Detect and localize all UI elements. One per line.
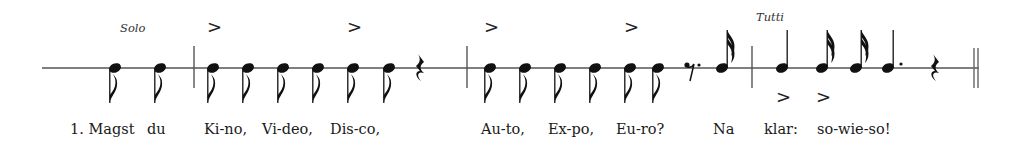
lyric-syllable: Vi-deo, xyxy=(261,121,313,137)
eighth-note: > xyxy=(483,16,500,103)
eighth-note xyxy=(553,61,568,103)
eighth-note xyxy=(276,61,291,103)
flag-icon xyxy=(653,74,660,102)
accent-icon: > xyxy=(484,16,499,37)
eighth-note xyxy=(518,61,533,103)
lyric-syllable: Au-to, xyxy=(480,121,525,137)
lyric-syllable: 1. Magst xyxy=(70,121,135,137)
accent-icon: > xyxy=(776,86,791,107)
eighth-note xyxy=(311,61,326,103)
eighth-note: > xyxy=(623,16,640,103)
flag-icon xyxy=(110,74,117,102)
accent-icon: > xyxy=(624,16,639,37)
flag-icon xyxy=(520,74,527,102)
flag-icon xyxy=(208,74,215,102)
eighth-note xyxy=(153,61,168,103)
eighth-note xyxy=(241,61,256,103)
eighth-note: > xyxy=(346,16,363,103)
accent-icon: > xyxy=(347,16,362,37)
eighth-note xyxy=(382,61,397,103)
flag-icon xyxy=(590,74,597,102)
eighth-note: > xyxy=(206,16,223,103)
lyric-syllable: klar: xyxy=(764,121,798,137)
flag-icon xyxy=(555,74,562,102)
flag-icon xyxy=(313,74,320,102)
flag-icon xyxy=(625,74,632,102)
accent-icon: > xyxy=(207,16,222,37)
flag-icon xyxy=(348,74,355,102)
lyric-syllable: Na xyxy=(713,121,735,137)
lyric-syllable: Eu-ro? xyxy=(616,121,664,137)
lyric-syllable: Ex-po, xyxy=(548,121,594,137)
flag-icon xyxy=(278,74,285,102)
lyric-syllable: so-wie-so! xyxy=(817,121,891,137)
accent-icon: > xyxy=(816,86,831,107)
eighth-note xyxy=(588,61,603,103)
eighth-note xyxy=(108,61,123,103)
lyric-syllable: Ki-no, xyxy=(204,121,247,137)
notes: >>>>>> xyxy=(108,16,903,107)
direction-tutti: Tutti xyxy=(756,10,784,24)
flag-icon xyxy=(384,74,391,102)
lyrics: 1. MagstduKi-no,Vi-deo,Dis-co,Au-to,Ex-p… xyxy=(70,121,891,137)
flag-icon xyxy=(485,74,492,102)
dot-icon xyxy=(899,62,902,65)
eighth-note xyxy=(651,61,666,103)
music-score: SoloTutti >>>>>> 1. MagstduKi-no,Vi-deo,… xyxy=(0,0,1010,149)
eighth-rest-icon xyxy=(684,62,700,81)
flag-icon xyxy=(243,74,250,102)
direction-solo: Solo xyxy=(120,21,145,35)
lyric-syllable: Dis-co, xyxy=(330,121,380,137)
lyric-syllable: du xyxy=(147,121,166,137)
flag-icon xyxy=(155,74,162,102)
